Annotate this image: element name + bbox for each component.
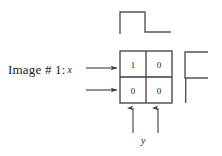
output-signal-symbol: y (141, 135, 145, 146)
image-caption-prefix: Image # 1: (8, 62, 66, 77)
input-signal-symbol: x (66, 64, 73, 75)
matrix-cell: 1 (120, 60, 146, 70)
matrix-cell: 0 (120, 86, 146, 96)
matrix-cell: 0 (146, 60, 172, 70)
right-step-waveform (185, 52, 208, 78)
image-signal-figure: Image # 1:x 1 0 0 0 y (0, 0, 222, 156)
image-caption: Image # 1:x (8, 62, 72, 78)
top-step-waveform (120, 12, 171, 34)
matrix-cell: 0 (146, 86, 172, 96)
figure-vector-layer (0, 0, 222, 156)
